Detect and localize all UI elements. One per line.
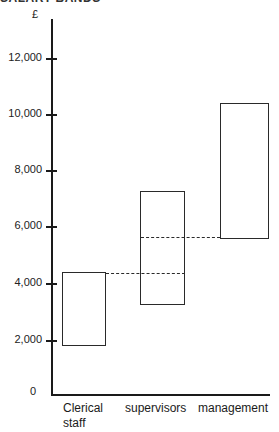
y-tick-2000 <box>46 340 57 342</box>
x-label-clerical-line1: Clerical <box>63 401 103 416</box>
y-tick-12000 <box>46 58 57 60</box>
x-label-supervisors: supervisors <box>125 401 186 416</box>
y-tick-6000 <box>46 226 57 228</box>
y-tick-label: 10,000 <box>0 107 42 119</box>
y-tick-8000 <box>46 170 57 172</box>
y-tick-label: 8,000 <box>0 163 42 175</box>
overlap-line-clerical-supervisors <box>106 273 185 274</box>
y-tick-label: 0 <box>0 385 36 397</box>
bar-clerical-staff <box>62 272 106 346</box>
y-tick-4000 <box>46 283 57 285</box>
y-tick-10000 <box>46 114 57 116</box>
bar-management <box>220 103 269 239</box>
x-label-clerical: Clerical staff <box>63 401 103 431</box>
y-tick-label: 2,000 <box>0 333 42 345</box>
chart-title: SALARY BANDS <box>0 0 101 5</box>
x-label-management: management <box>198 401 268 416</box>
y-axis-unit: £ <box>32 8 38 20</box>
x-axis <box>51 394 270 396</box>
y-tick-label: 4,000 <box>0 276 42 288</box>
overlap-line-supervisors-management <box>141 237 220 238</box>
y-tick-label: 6,000 <box>0 219 42 231</box>
bar-supervisors <box>140 191 185 305</box>
x-label-clerical-line2: staff <box>63 416 103 431</box>
y-tick-label: 12,000 <box>0 51 42 63</box>
